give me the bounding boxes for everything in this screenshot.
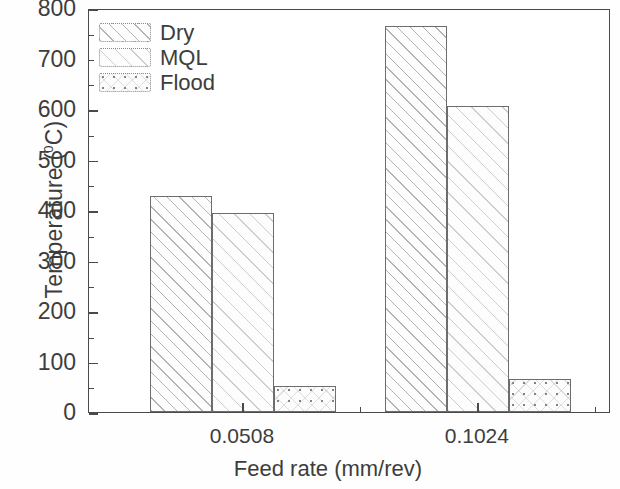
legend-item: Flood xyxy=(99,70,215,95)
y-axis-major-tick xyxy=(89,110,98,112)
y-axis-major-tick xyxy=(89,211,98,213)
y-axis-tick-label: 0 xyxy=(8,401,76,424)
x-axis-tick-label: 0.1024 xyxy=(407,424,547,448)
chart-figure: Temperature (0C) Feed rate (mm/rev) 8007… xyxy=(0,0,620,489)
y-axis-minor-tick xyxy=(89,237,94,238)
legend-label: MQL xyxy=(160,47,208,69)
y-axis-tick-label: 600 xyxy=(8,98,76,121)
mql-swatch-icon xyxy=(99,48,151,67)
x-axis-minor-tick xyxy=(360,407,361,412)
y-axis-minor-tick xyxy=(89,388,94,389)
y-axis-tick-label: 400 xyxy=(8,199,76,222)
y-axis-minor-tick xyxy=(89,338,94,339)
y-axis-tick-label: 200 xyxy=(8,300,76,323)
x-axis-title: Feed rate (mm/rev) xyxy=(88,456,568,482)
y-axis-major-tick xyxy=(89,262,98,264)
y-axis-tick-label: 700 xyxy=(8,48,76,71)
x-axis-major-tick xyxy=(242,403,244,412)
legend-item: MQL xyxy=(99,45,215,70)
dry-swatch-icon xyxy=(99,23,151,42)
bar-flood-0.0508 xyxy=(274,386,336,412)
y-axis-tick-label: 800 xyxy=(8,0,76,20)
y-axis-major-tick xyxy=(89,312,98,314)
y-axis-tick-label: 100 xyxy=(8,351,76,374)
y-axis-major-tick xyxy=(89,363,98,365)
y-axis-tick-labels: 8007006005004003002001000 xyxy=(8,0,76,489)
y-axis-minor-tick xyxy=(89,186,94,187)
chart-legend: Dry MQL Flood xyxy=(94,16,222,100)
y-axis-minor-tick xyxy=(89,287,94,288)
flood-swatch-icon xyxy=(99,73,151,92)
legend-item: Dry xyxy=(99,20,215,45)
bar-flood-0.1024 xyxy=(509,379,571,412)
y-axis-tick-label: 300 xyxy=(8,250,76,273)
x-axis-major-tick xyxy=(477,403,479,412)
legend-label: Flood xyxy=(160,72,215,94)
bar-mql-0.1024 xyxy=(447,106,509,412)
legend-label: Dry xyxy=(160,22,194,44)
x-axis-tick-label: 0.0508 xyxy=(172,424,312,448)
bar-dry-0.1024 xyxy=(385,26,447,412)
y-axis-minor-tick xyxy=(89,136,94,137)
bar-dry-0.0508 xyxy=(150,196,212,412)
y-axis-major-tick xyxy=(89,413,98,415)
y-axis-tick-label: 500 xyxy=(8,149,76,172)
y-axis-major-tick xyxy=(89,161,98,163)
bar-mql-0.0508 xyxy=(212,213,274,412)
plot-area: Dry MQL Flood xyxy=(88,9,610,413)
x-axis-minor-tick xyxy=(595,407,596,412)
y-axis-major-tick xyxy=(89,9,98,11)
